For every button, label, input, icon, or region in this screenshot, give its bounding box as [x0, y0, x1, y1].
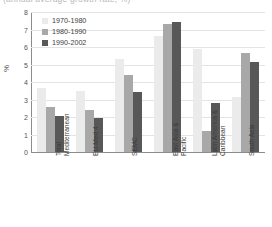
x-tick-label-line: Total [55, 142, 62, 156]
legend-label: 1990-2002 [52, 39, 86, 46]
chart-legend: 1970-19801980-19901990-2002 [42, 15, 86, 48]
x-tick-label: SEMC [131, 137, 139, 156]
bar-group [226, 12, 265, 152]
y-tick-label: 1 [24, 131, 28, 138]
bar [232, 97, 240, 152]
x-tick-label-line: Latin America & [211, 110, 218, 156]
y-tick-label: 2 [24, 114, 28, 121]
x-tick-label-line: Caribbean [218, 110, 226, 156]
legend-swatch-icon [42, 40, 48, 46]
x-tick-label-line: East Asia & [172, 122, 179, 156]
x-tick-label: EU-Med 4 [92, 126, 100, 156]
bar [115, 59, 123, 152]
bar [76, 91, 84, 152]
x-tick-label-line: Pacific [179, 122, 187, 156]
y-tick-label: 0 [24, 149, 28, 156]
x-tick-label-line: Mediterranean [62, 113, 70, 156]
legend-item: 1970-1980 [42, 15, 86, 26]
bar [193, 49, 201, 152]
x-tick-label: South Asia [248, 124, 256, 156]
bar [37, 88, 45, 152]
y-axis-title: % [2, 65, 11, 72]
y-axis-tick-labels: 012345678 [14, 12, 28, 152]
y-tick-label: 8 [24, 9, 28, 16]
x-tick-label-line: EU-Med 4 [92, 126, 99, 156]
legend-item: 1980-1990 [42, 26, 86, 37]
legend-label: 1970-1980 [52, 17, 86, 24]
bar [163, 24, 171, 152]
bar-group [109, 12, 148, 152]
bar [154, 36, 162, 152]
legend-swatch-icon [42, 29, 48, 35]
grouped-bar-chart: 012345678 % 1970-19801980-19901990-2002 … [0, 0, 272, 227]
y-tick-label: 4 [24, 79, 28, 86]
bar [202, 131, 210, 152]
legend-swatch-icon [42, 18, 48, 24]
bar [46, 107, 54, 152]
y-tick-label: 5 [24, 61, 28, 68]
y-tick-label: 6 [24, 44, 28, 51]
y-tick-label: 7 [24, 26, 28, 33]
x-tick-label-line: South Asia [248, 124, 255, 156]
legend-item: 1990-2002 [42, 37, 86, 48]
legend-label: 1980-1990 [52, 28, 86, 35]
x-tick-label: East Asia &Pacific [172, 122, 187, 156]
x-tick-label-line: SEMC [131, 137, 138, 156]
x-tick-label: TotalMediterranean [55, 113, 70, 156]
y-tick-label: 3 [24, 96, 28, 103]
x-tick-label: Latin America &Caribbean [211, 110, 226, 156]
